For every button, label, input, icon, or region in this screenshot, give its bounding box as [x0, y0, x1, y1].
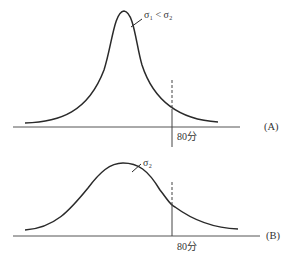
panel-b-curve	[25, 163, 238, 230]
panel-b-marker-label: 80分	[177, 242, 197, 252]
panel-b-label: (B)	[266, 231, 280, 242]
panel-a-curve-label: σ₁ < σ₂	[144, 10, 172, 20]
panel-b-curve-label: σ₂	[143, 158, 152, 168]
panel-a-marker-label: 80分	[177, 132, 197, 142]
panel-b	[13, 163, 260, 236]
panel-a-label: (A)	[264, 122, 279, 133]
panel-a-curve	[25, 11, 218, 123]
panel-a	[13, 11, 240, 147]
normal-distribution-diagram	[0, 0, 291, 257]
